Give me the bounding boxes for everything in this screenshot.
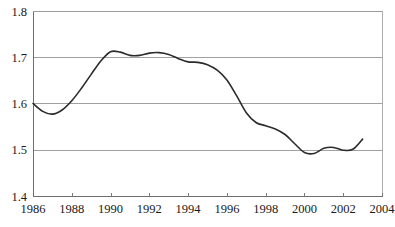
x-tick-label-1994: 1994 [176, 202, 202, 216]
x-tick-label-2000: 2000 [292, 202, 317, 216]
y-tick-label-1_5: 1.5 [11, 143, 27, 157]
x-tick-label-1986: 1986 [21, 202, 46, 216]
x-tick-label-1988: 1988 [59, 202, 84, 216]
x-tick-label-1998: 1998 [253, 202, 278, 216]
gridlines-group [33, 12, 382, 197]
chart-canvas: 1.41.51.61.71.8 198619881990199219941996… [0, 0, 395, 227]
data-series-group [33, 51, 363, 154]
x-tick-label-2002: 2002 [331, 202, 356, 216]
y-tick-label-1_8: 1.8 [11, 5, 27, 19]
x-tick-labels-group: 1986198819901992199419961998200020022004 [21, 202, 395, 216]
x-tick-label-1996: 1996 [214, 202, 239, 216]
x-tickmarks-group [34, 193, 383, 197]
y-tick-label-1_6: 1.6 [11, 97, 27, 111]
y-tick-label-1_7: 1.7 [11, 51, 27, 65]
y-tick-labels-group: 1.41.51.61.71.8 [11, 5, 27, 204]
series-line-1 [33, 51, 363, 154]
x-tick-label-2004: 2004 [370, 202, 395, 216]
x-tick-label-1990: 1990 [98, 202, 123, 216]
x-tick-label-1992: 1992 [137, 202, 162, 216]
plot-frame [34, 12, 383, 197]
line-chart: 1.41.51.61.71.8 198619881990199219941996… [0, 0, 395, 227]
